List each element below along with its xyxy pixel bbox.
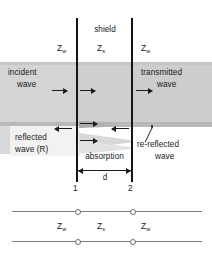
reflected-wave-label-line1: reflected	[15, 133, 47, 143]
incident-wave-label-line2: wave	[17, 80, 36, 90]
boundary-wall-2	[131, 18, 133, 182]
field-band-top-edge	[0, 62, 212, 65]
transmission-line-top-conductor	[12, 211, 202, 212]
tline-node-top-left	[75, 209, 81, 215]
re-reflected-wave-label-line2: wave	[155, 152, 174, 162]
shield-label: shield	[79, 25, 131, 35]
impedance-label-shield: Zs	[97, 44, 105, 55]
tline-impedance-left: Zw	[57, 222, 66, 233]
re-reflected-wave-label-line1: re-reflected	[137, 140, 179, 150]
thickness-dimension-line	[78, 170, 131, 171]
shield-arrow-3	[80, 140, 97, 141]
tline-node-bottom-right	[130, 239, 136, 245]
tline-impedance-shield: Zs	[97, 222, 105, 233]
shield-region-band	[78, 62, 131, 126]
transmitted-arrow-1	[136, 90, 152, 91]
boundary-number-1: 1	[73, 184, 78, 194]
transmitted-wave-label-line1: transmitted	[141, 68, 182, 78]
thickness-tick-right	[132, 166, 133, 175]
transmitted-wave-label-line2: wave	[157, 80, 176, 90]
incident-arrow-1	[52, 90, 67, 91]
incident-wave-label-line1: incident	[8, 68, 37, 78]
thickness-tick-left	[77, 166, 78, 175]
boundary-number-2: 2	[128, 184, 133, 194]
thickness-symbol-label: d	[85, 173, 125, 183]
tline-node-top-right	[130, 209, 136, 215]
transmission-line-bottom-conductor	[12, 241, 202, 242]
shielding-diagram-figure: shield Zw Zs Zw incident wave transmitte…	[0, 0, 212, 256]
absorption-label: absorption	[78, 152, 131, 162]
tline-node-bottom-left	[75, 239, 81, 245]
reflected-arrow-1	[55, 128, 72, 129]
thickness-arrowhead-right	[126, 168, 131, 174]
shield-arrow-1	[80, 90, 95, 91]
impedance-label-right: Zw	[141, 44, 150, 55]
thickness-arrowhead-left	[78, 168, 83, 174]
tline-impedance-right: Zw	[141, 222, 150, 233]
reflected-wave-label-line2: wave (R)	[15, 145, 48, 155]
shield-arrow-2	[80, 123, 97, 124]
impedance-label-left: Zw	[57, 44, 66, 55]
re-reflected-arrow-1	[112, 128, 129, 129]
